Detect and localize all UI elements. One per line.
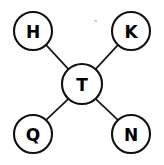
node-t-center[interactable]: T [62,64,102,104]
edge-t-h [47,46,69,70]
node-h[interactable]: H [14,12,52,50]
node-q-label: Q [26,125,40,145]
edge-t-n [96,99,118,120]
edge-t-q [47,99,69,120]
node-t-label: T [76,75,88,95]
node-n-label: N [124,125,138,145]
edge-t-k [96,46,118,70]
graph-canvas: H K Q N T [0,0,164,165]
node-link-diagram: H K Q N T [0,0,164,165]
node-k[interactable]: K [112,12,150,50]
scan-artifact-speck [94,20,97,22]
node-q[interactable]: Q [14,115,52,153]
node-h-label: H [26,22,40,42]
node-k-label: K [124,22,138,42]
node-n[interactable]: N [112,115,150,153]
